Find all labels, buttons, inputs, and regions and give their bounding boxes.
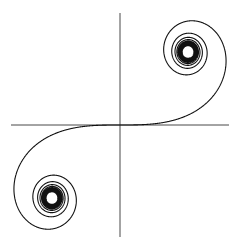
euler-spiral-figure <box>0 0 240 247</box>
plot-canvas <box>0 0 240 247</box>
